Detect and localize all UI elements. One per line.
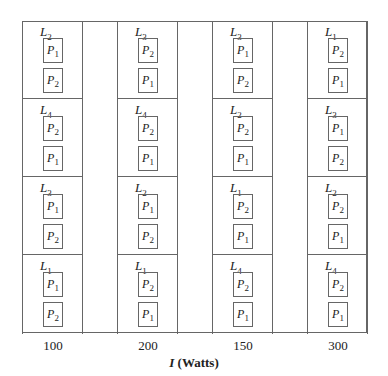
subplot-box: P1 (233, 302, 253, 327)
subplot-box: P1 (328, 302, 348, 327)
subplot-box: P2 (328, 194, 348, 219)
subplot-box: P1 (233, 38, 253, 63)
subplot-box: P1 (43, 146, 63, 171)
whole-plot-cell: L4P2P1 (23, 99, 82, 177)
subplot-box: P2 (328, 38, 348, 63)
subplot-box: P2 (233, 68, 253, 93)
subplot-box: P2 (138, 116, 158, 141)
whole-plot-cell: L2P1P2 (23, 21, 82, 99)
subplot-box: P2 (43, 68, 63, 93)
whole-plot-cell: L4P2P1 (118, 99, 177, 177)
subplot-box: P2 (328, 272, 348, 297)
subplot-box: P1 (233, 224, 253, 249)
subplot-box: P1 (328, 116, 348, 141)
subplot-box: P2 (43, 116, 63, 141)
whole-plot-cell: L1P1P2 (23, 255, 82, 333)
x-axis-label: I (Watts) (0, 355, 388, 371)
level-tick-label: 100 (23, 338, 83, 354)
whole-plot-cell: L1P2P1 (118, 255, 177, 333)
whole-plot-cell: L1P2P1 (308, 21, 367, 99)
whole-plot-column: L3P1P2L2P2P1L1P2P1L4P2P1 (212, 21, 273, 334)
subplot-box: P2 (138, 272, 158, 297)
whole-plot-cell: L3P1P2 (23, 177, 82, 255)
whole-plot-cell: L4P2P1 (308, 255, 367, 333)
subplot-box: P1 (138, 146, 158, 171)
subplot-box: P2 (43, 224, 63, 249)
axis-variable: I (169, 355, 174, 370)
subplot-box: P1 (138, 194, 158, 219)
level-tick-label: 300 (308, 338, 368, 354)
subplot-box: P1 (233, 146, 253, 171)
whole-plot-cell: L2P1P2 (118, 177, 177, 255)
subplot-box: P2 (233, 272, 253, 297)
subplot-box: P2 (233, 194, 253, 219)
subplot-box: P2 (233, 116, 253, 141)
whole-plot-cell: L3P1P2 (213, 21, 272, 99)
whole-plot-cell: L3P1P2 (308, 99, 367, 177)
whole-plot-cell: L4P2P1 (213, 255, 272, 333)
whole-plot-cell: L2P2P1 (213, 99, 272, 177)
subplot-box: P1 (138, 302, 158, 327)
subplot-box: P1 (138, 68, 158, 93)
subplot-box: P1 (328, 68, 348, 93)
whole-plot-column: L1P2P1L3P1P2L2P2P1L4P2P1 (307, 21, 368, 334)
whole-plot-column: L2P1P2L4P2P1L3P1P2L1P1P2 (22, 21, 83, 334)
subplot-box: P2 (138, 38, 158, 63)
whole-plot-cell: L1P2P1 (213, 177, 272, 255)
level-tick-label: 200 (118, 338, 178, 354)
subplot-box: P2 (43, 302, 63, 327)
whole-plot-cell: L2P2P1 (308, 177, 367, 255)
subplot-box: P1 (328, 224, 348, 249)
whole-plot-cell: L3P2P1 (118, 21, 177, 99)
subplot-box: P1 (43, 272, 63, 297)
subplot-box: P2 (138, 224, 158, 249)
subplot-box: P2 (328, 146, 348, 171)
level-tick-label: 150 (213, 338, 273, 354)
whole-plot-column: L3P2P1L4P2P1L2P1P2L1P2P1 (117, 21, 178, 334)
axis-unit: (Watts) (178, 355, 219, 370)
subplot-box: P1 (43, 38, 63, 63)
subplot-box: P1 (43, 194, 63, 219)
